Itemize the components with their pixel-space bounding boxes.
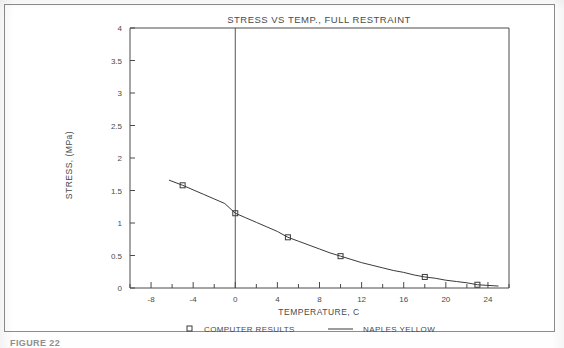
legend-label-computer-results: COMPUTER RESULTS	[204, 325, 295, 334]
x-tick-label: 20	[441, 295, 450, 304]
y-tick-label: 3.5	[111, 57, 123, 66]
chart-legend: COMPUTER RESULTS NAPLES YELLOW	[187, 325, 435, 334]
x-tick-label: 16	[399, 295, 408, 304]
x-tick-label: 0	[233, 295, 238, 304]
y-axis-ticks	[130, 28, 135, 288]
x-tick-label: 4	[275, 295, 280, 304]
figure-caption: FIGURE 22	[10, 338, 60, 348]
x-tick-label: -4	[190, 295, 198, 304]
legend-open-square-marker	[187, 326, 192, 331]
y-tick-label: 0	[118, 284, 123, 293]
naples-yellow-curve	[169, 180, 499, 286]
x-axis-label: TEMPERATURE, C	[278, 307, 359, 317]
legend-item-computer-results: COMPUTER RESULTS	[187, 325, 295, 334]
y-axis-label: STRESS, (MPa)	[64, 131, 74, 199]
x-axis-tick-labels: -8-404812162024	[147, 295, 492, 304]
chart-title: STRESS VS TEMP., FULL RESTRAINT	[227, 14, 411, 25]
y-tick-label: 2	[118, 154, 123, 163]
legend-label-naples-yellow: NAPLES YELLOW	[363, 325, 435, 334]
y-tick-label: 1	[118, 219, 123, 228]
x-tick-label: -8	[147, 295, 155, 304]
x-tick-label: 12	[357, 295, 366, 304]
stress-vs-temperature-chart: 00.511.522.533.54 -8-404812162024 STRESS…	[0, 0, 564, 348]
y-tick-label: 1.5	[111, 187, 123, 196]
computer-results-markers	[180, 183, 480, 287]
x-tick-label: 8	[317, 295, 322, 304]
y-tick-label: 3	[118, 89, 123, 98]
y-axis-tick-labels: 00.511.522.533.54	[111, 24, 123, 293]
x-tick-label: 24	[483, 295, 492, 304]
y-tick-label: 0.5	[111, 252, 123, 261]
y-tick-label: 4	[118, 24, 123, 33]
y-tick-label: 2.5	[111, 122, 123, 131]
figure-page: 00.511.522.533.54 -8-404812162024 STRESS…	[0, 0, 564, 348]
x-axis-ticks	[130, 282, 509, 288]
legend-item-naples-yellow: NAPLES YELLOW	[328, 325, 435, 334]
